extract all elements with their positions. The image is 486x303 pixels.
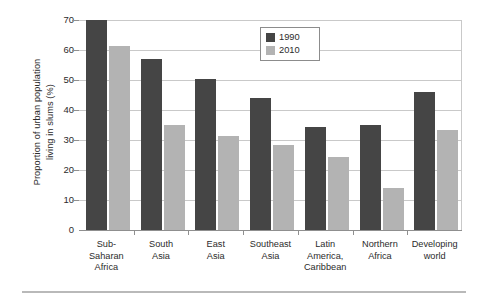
y-tick-label-50: 50 bbox=[48, 75, 74, 85]
bar bbox=[305, 127, 326, 231]
x-axis-baseline bbox=[79, 230, 462, 231]
legend-swatch-icon bbox=[266, 46, 275, 55]
bar bbox=[273, 145, 294, 231]
bar-group bbox=[188, 20, 243, 230]
y-tick-mark-70 bbox=[72, 20, 79, 21]
bar bbox=[218, 136, 239, 231]
y-tick-label-10: 10 bbox=[48, 195, 74, 205]
x-category-label-line: Caribbean bbox=[292, 262, 359, 274]
footer-divider bbox=[22, 291, 466, 293]
x-tick-mark bbox=[134, 230, 135, 235]
legend-label: 1990 bbox=[279, 33, 300, 42]
y-tick-label-20: 20 bbox=[48, 165, 74, 175]
slum-population-bar-chart: Proportion of urban population living in… bbox=[0, 0, 486, 303]
bar bbox=[360, 125, 381, 230]
y-tick-label-60: 60 bbox=[48, 45, 74, 55]
x-tick-mark bbox=[353, 230, 354, 235]
bar bbox=[414, 92, 435, 230]
bar bbox=[328, 157, 349, 231]
y-tick-mark-10 bbox=[72, 200, 79, 201]
bar-group bbox=[353, 20, 408, 230]
y-tick-label-30: 30 bbox=[48, 135, 74, 145]
x-tick-mark bbox=[407, 230, 408, 235]
x-category-label-line: Africa bbox=[73, 262, 140, 274]
bar-group bbox=[79, 20, 134, 230]
y-tick-mark-50 bbox=[72, 80, 79, 81]
legend-swatch-icon bbox=[266, 33, 275, 42]
bar-group bbox=[134, 20, 189, 230]
x-category-label: Developingworld bbox=[401, 239, 468, 262]
bar bbox=[86, 20, 107, 230]
x-tick-mark bbox=[188, 230, 189, 235]
y-axis-tick-labels: 010203040506070 bbox=[48, 0, 74, 303]
x-category-label-line: Developing bbox=[401, 239, 468, 251]
bar bbox=[195, 79, 216, 231]
chart-legend: 19902010 bbox=[260, 27, 320, 61]
bar-group bbox=[407, 20, 462, 230]
bar bbox=[109, 46, 130, 231]
bar bbox=[437, 130, 458, 231]
y-tick-mark-40 bbox=[72, 110, 79, 111]
y-axis-title-line-1: Proportion of urban population bbox=[31, 12, 44, 232]
legend-entry: 2010 bbox=[266, 44, 319, 57]
x-category-label-line: world bbox=[401, 251, 468, 263]
legend-entry: 1990 bbox=[266, 31, 319, 44]
y-tick-mark-30 bbox=[72, 140, 79, 141]
legend-label: 2010 bbox=[279, 46, 300, 55]
y-tick-label-70: 70 bbox=[48, 15, 74, 25]
bar bbox=[250, 98, 271, 230]
bar bbox=[164, 125, 185, 230]
bar bbox=[141, 59, 162, 230]
x-tick-mark bbox=[243, 230, 244, 235]
y-tick-mark-60 bbox=[72, 50, 79, 51]
y-tick-mark-20 bbox=[72, 170, 79, 171]
x-tick-mark bbox=[298, 230, 299, 235]
bar bbox=[383, 188, 404, 230]
y-tick-label-40: 40 bbox=[48, 105, 74, 115]
y-tick-label-0: 0 bbox=[48, 225, 74, 235]
